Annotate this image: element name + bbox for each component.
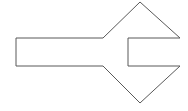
drawing-canvas	[0, 0, 188, 111]
shape-canvas-svg	[0, 0, 188, 111]
